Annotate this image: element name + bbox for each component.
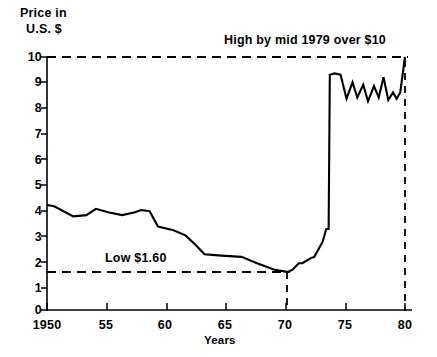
chart-container: Price in U.S. $ 10 9 8 7 6 5 4 3 2 1 0 1…: [0, 0, 437, 357]
price-series-line: [47, 57, 405, 272]
plot-area: [0, 0, 437, 357]
x-axis-ticks: [47, 303, 405, 310]
y-axis-ticks: [41, 57, 47, 310]
